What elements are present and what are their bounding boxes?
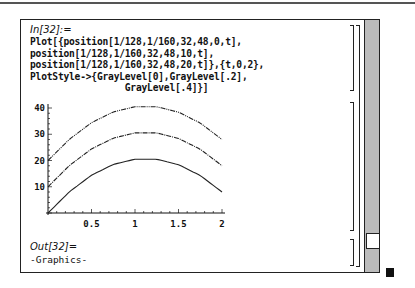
series-curve-0 — [48, 159, 222, 213]
cell-bracket-input[interactable] — [350, 25, 354, 91]
cell-group-bracket[interactable] — [356, 25, 360, 267]
code-line: Plot[{position[1/128,1/160,32,48,0,t], — [30, 36, 264, 48]
code-line: PlotStyle->{GrayLevel[0],GrayLevel[.2], — [30, 71, 264, 83]
input-cell-code[interactable]: Plot[{position[1/128,1/160,32,48,0,t],po… — [30, 36, 264, 94]
x-tick-label: 2 — [219, 219, 224, 228]
output-label: Out[32]= — [30, 241, 77, 252]
output-value: -Graphics- — [30, 254, 87, 265]
series-curve-1 — [48, 133, 222, 187]
scrollbar-thumb[interactable] — [366, 233, 380, 249]
cell-bracket-graphics[interactable] — [350, 102, 354, 231]
x-tick-label: 0.5 — [83, 219, 99, 228]
window-top-rule — [0, 2, 415, 4]
vertical-scrollbar[interactable] — [364, 19, 380, 273]
x-tick-label: 1 — [132, 219, 137, 228]
code-line: GrayLevel[.4]}] — [30, 82, 264, 94]
y-tick-label: 20 — [34, 156, 45, 166]
cell-bracket-output[interactable] — [350, 239, 354, 266]
resize-grow-box[interactable] — [386, 268, 394, 277]
series-curve-2 — [48, 107, 222, 161]
code-line: position[1/128,1/160,32,48,10,t], — [30, 48, 264, 60]
y-tick-label: 40 — [34, 103, 45, 113]
graphics-plot[interactable]: 0.511.5210203040 — [20, 98, 250, 228]
code-line: position[1/128,1/160,32,48,20,t]},{t,0,2… — [30, 59, 264, 71]
y-tick-label: 30 — [34, 129, 45, 139]
x-tick-label: 1.5 — [170, 219, 186, 228]
y-tick-label: 10 — [34, 182, 45, 192]
input-label: In[32]:= — [30, 24, 72, 35]
